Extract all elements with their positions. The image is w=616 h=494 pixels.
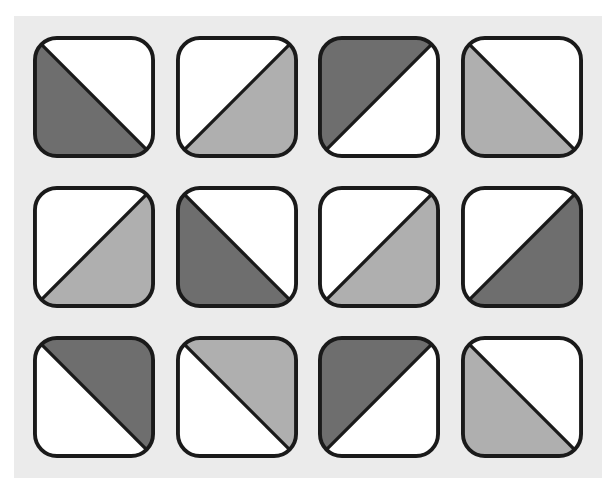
tile-r2c4[interactable] bbox=[461, 186, 583, 308]
tile-grid-panel bbox=[14, 16, 602, 478]
tile-cell bbox=[171, 28, 304, 166]
tile-cell bbox=[171, 328, 304, 466]
tile-r2c3[interactable] bbox=[318, 186, 440, 308]
tile-cell bbox=[456, 178, 589, 316]
tile-r1c4[interactable] bbox=[461, 36, 583, 158]
tile-r1c3[interactable] bbox=[318, 36, 440, 158]
tile-r3c3[interactable] bbox=[318, 336, 440, 458]
tile-cell bbox=[456, 28, 589, 166]
tile-r3c4[interactable] bbox=[461, 336, 583, 458]
tile-cell bbox=[28, 178, 161, 316]
tile-r3c2[interactable] bbox=[176, 336, 298, 458]
tile-cell bbox=[28, 328, 161, 466]
tile-r2c1[interactable] bbox=[33, 186, 155, 308]
tile-cell bbox=[28, 28, 161, 166]
tile-cell bbox=[313, 328, 446, 466]
tile-grid bbox=[14, 16, 602, 478]
tile-r1c1[interactable] bbox=[33, 36, 155, 158]
tile-cell bbox=[313, 28, 446, 166]
tile-r3c1[interactable] bbox=[33, 336, 155, 458]
tile-cell bbox=[456, 328, 589, 466]
figure-stage bbox=[0, 0, 616, 494]
tile-cell bbox=[313, 178, 446, 316]
tile-r2c2[interactable] bbox=[176, 186, 298, 308]
tile-cell bbox=[171, 178, 304, 316]
tile-r1c2[interactable] bbox=[176, 36, 298, 158]
